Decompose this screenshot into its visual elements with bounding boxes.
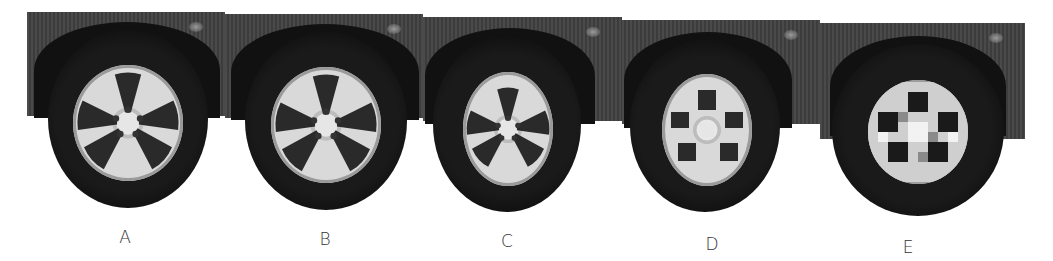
panel-label-e: E — [903, 237, 914, 257]
panel-c: C — [423, 0, 622, 261]
panel-label-a: A — [119, 227, 131, 247]
rim-wheel-icon — [271, 67, 381, 183]
panel-d: D — [622, 0, 820, 261]
rim-wheel-icon — [73, 65, 183, 181]
panel-label-d: D — [705, 234, 718, 254]
rim-wheel-icon — [662, 74, 752, 186]
rim-wheel-icon — [463, 72, 553, 186]
panel-label-c: C — [501, 231, 513, 251]
rim-wheel-icon — [868, 80, 968, 184]
panel-a: A — [27, 0, 225, 261]
panel-b: B — [225, 0, 423, 261]
panel-e: E — [820, 0, 1025, 261]
panel-label-b: B — [319, 229, 330, 249]
